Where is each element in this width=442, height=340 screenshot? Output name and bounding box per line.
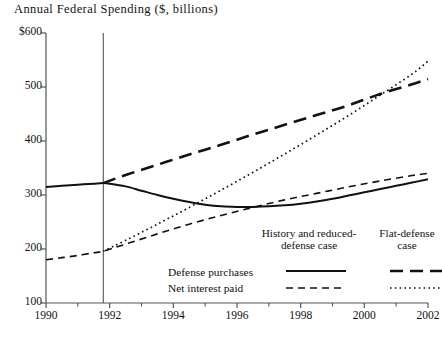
series-line-1 [103,79,428,183]
legend-column-header-history: History and reduced-defense case [250,228,368,251]
x-axis-ticks [46,303,428,308]
x-tick-label: 2000 [341,309,387,321]
legend-swatch-defense-flat [390,266,442,276]
x-tick-label: 1994 [150,309,196,321]
y-axis-ticks [41,33,46,303]
legend-swatch-interest-history [286,283,346,293]
x-tick-label: 1992 [87,309,133,321]
legend-row-label-net-interest-paid: Net interest paid [168,282,276,294]
series-line-3 [103,61,428,251]
legend-swatch-interest-flat [390,283,442,293]
y-tick-label: 100 [0,295,42,307]
y-tick-label: 300 [0,187,42,199]
y-tick-label: 200 [0,241,42,253]
x-tick-label: 2002 [405,309,442,321]
x-tick-label: 1998 [278,309,324,321]
legend-column-header-flat: Flat-defense case [374,228,440,251]
y-tick-label: 500 [0,79,42,91]
legend-row-label-defense-purchases: Defense purchases [168,266,276,278]
legend-swatch-defense-history [286,266,346,276]
x-tick-label: 1990 [23,309,69,321]
y-tick-label: 400 [0,133,42,145]
y-tick-label: $600 [0,25,42,37]
x-tick-label: 1996 [214,309,260,321]
chart-container: Annual Federal Spending ($, billions) $6… [0,0,442,340]
